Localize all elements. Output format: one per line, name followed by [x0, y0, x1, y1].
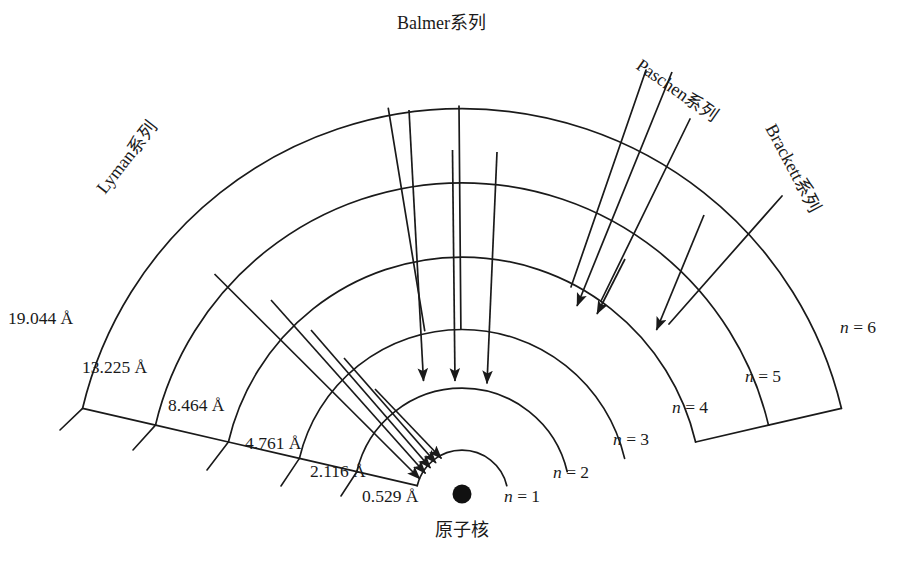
tick-n3: [281, 458, 299, 486]
level-label-n1: n = 1: [504, 486, 540, 506]
paschen-arrow-group: [577, 72, 704, 330]
series-label-lyman: Lyman系列: [92, 117, 161, 197]
radius-label-n6: 19.044 Å: [8, 308, 74, 328]
radius-label-n3: 4.761 Å: [245, 433, 302, 453]
spoke-right-paschen-lower: [602, 119, 691, 300]
orbit-arc-n2: [357, 388, 567, 472]
spoke-right-n5-n6: [769, 408, 842, 425]
level-label-n2: n = 2: [553, 462, 589, 482]
lyman-arrow-2-to-1: [375, 389, 442, 459]
balmer-arrow-group: [409, 110, 497, 384]
spoke-left-n5-n6: [83, 408, 156, 425]
balmer-arrow-4-to-2: [487, 152, 497, 384]
tick-n4: [207, 442, 228, 470]
bohr-model-canvas: 19.044 Å 13.225 Å 8.464 Å 4.761 Å 2.116 …: [0, 0, 919, 571]
spoke-right-n4-n5: [696, 425, 769, 442]
spoke-balmer-outer-b: [459, 106, 461, 329]
nucleus-dot-icon: [453, 485, 472, 504]
lyman-arrow-4-to-1: [311, 330, 431, 468]
series-label-paschen: Paschen系列: [633, 55, 722, 126]
radius-label-group: 19.044 Å 13.225 Å 8.464 Å 4.761 Å 2.116 …: [8, 308, 419, 506]
radial-spoke-group: [83, 70, 842, 486]
spoke-left-n4-n5: [156, 425, 229, 442]
tick-n6: [60, 408, 83, 430]
nucleus-label: 原子核: [435, 519, 489, 540]
orbit-arc-n3: [299, 329, 624, 458]
lyman-arrow-3-to-1: [344, 358, 436, 463]
series-label-balmer: Balmer系列: [397, 13, 486, 33]
orbit-arc-n1: [417, 450, 507, 486]
level-label-n5: n = 5: [745, 366, 781, 386]
radius-label-n1: 0.529 Å: [362, 486, 419, 506]
radius-label-n5: 13.225 Å: [82, 357, 148, 377]
series-label-brackett: Brackett系列: [761, 120, 824, 215]
level-label-n4: n = 4: [672, 397, 708, 417]
radius-label-n2: 2.116 Å: [310, 461, 366, 481]
level-label-n6: n = 6: [840, 317, 876, 337]
paschen-arrow-6-to-3: [577, 72, 672, 306]
paschen-arrow-4-to-3: [657, 215, 705, 330]
paschen-arrow-5-to-3: [597, 259, 625, 314]
spoke-right-paschen-upper: [571, 70, 646, 287]
level-label-n3: n = 3: [613, 429, 649, 449]
radius-label-n4: 8.464 Å: [168, 395, 225, 415]
bohr-model-diagram: 19.044 Å 13.225 Å 8.464 Å 4.761 Å 2.116 …: [0, 0, 919, 571]
orbit-arc-group: [83, 109, 842, 486]
balmer-arrow-5-to-2: [453, 150, 456, 381]
orbit-arc-n4: [228, 257, 695, 442]
spoke-left-n1-n2: [357, 472, 417, 486]
tick-n5: [133, 425, 156, 450]
